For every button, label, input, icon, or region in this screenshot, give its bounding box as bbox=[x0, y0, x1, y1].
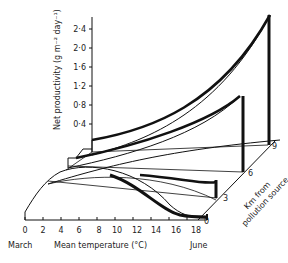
y-tick: 1·6 bbox=[73, 63, 86, 72]
x-tick: 6 bbox=[76, 226, 81, 235]
y-tick-labels: 2·4 2·0 1·6 1·2 0·8 0·4 bbox=[73, 25, 86, 129]
x-tick: 18 bbox=[191, 226, 201, 235]
z-axis-title: Km from pollution source bbox=[233, 168, 288, 228]
x-tick: 0 bbox=[22, 226, 27, 235]
y-tick: 2·0 bbox=[73, 44, 86, 53]
x-end-label: June bbox=[189, 241, 208, 250]
x-tick-labels: 0 2 4 6 8 10 12 14 16 18 bbox=[22, 226, 201, 235]
x-axis-title: Mean temperature (°C) bbox=[54, 241, 147, 250]
x-axis bbox=[25, 217, 207, 220]
y-tick: 1·2 bbox=[73, 82, 86, 91]
x-tick: 10 bbox=[112, 226, 122, 235]
x-tick: 4 bbox=[58, 226, 63, 235]
y-tick: 0·8 bbox=[73, 101, 86, 110]
y-tick: 2·4 bbox=[73, 25, 86, 34]
x-tick: 12 bbox=[132, 226, 142, 235]
depth-floor-lines bbox=[48, 145, 268, 198]
z-tick: 9 bbox=[272, 142, 277, 151]
x-tick: 8 bbox=[96, 226, 101, 235]
series-6km bbox=[68, 96, 243, 172]
y-axis bbox=[89, 17, 92, 152]
y-axis-title: Net productivity (g m⁻² day⁻¹) bbox=[53, 9, 62, 130]
productivity-3d-chart: 2·4 2·0 1·6 1·2 0·8 0·4 Net productivity… bbox=[0, 0, 288, 263]
x-tick: 16 bbox=[171, 226, 181, 235]
x-tick: 2 bbox=[40, 226, 45, 235]
y-tick: 0·4 bbox=[73, 120, 86, 129]
x-start-label: March bbox=[8, 241, 32, 250]
x-tick: 14 bbox=[151, 226, 161, 235]
z-tick: 6 bbox=[248, 169, 253, 178]
series-0km bbox=[25, 167, 207, 220]
z-tick: 3 bbox=[223, 194, 228, 203]
